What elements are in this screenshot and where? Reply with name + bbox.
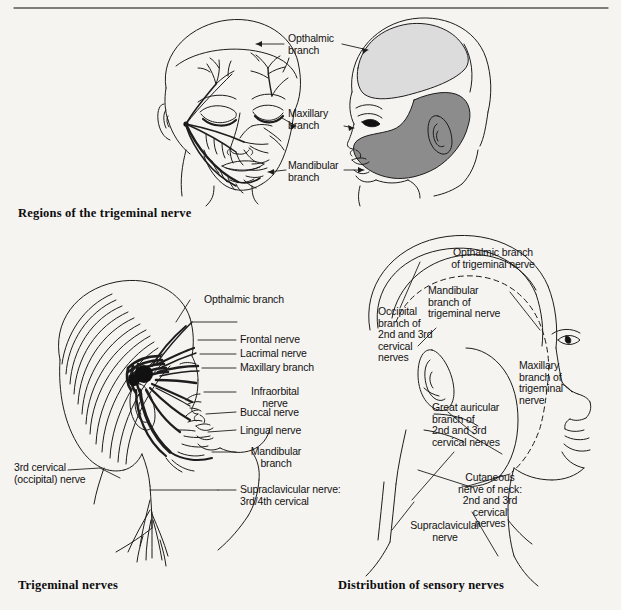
label-opthalmic-branch-top: Opthalmic branch: [288, 33, 334, 56]
textbook-page: Opthalmic branch Maxillary branch Mandib…: [0, 0, 621, 610]
label-lacrimal-nerve: Lacrimal nerve: [240, 348, 307, 360]
label-lingual-nerve: Lingual nerve: [240, 425, 301, 437]
label-third-cervical-nerve: 3rd cervical (occipital) nerve: [14, 462, 86, 485]
label-maxillary-branch-top: Maxillary branch: [288, 108, 328, 131]
label-mandibular-branch-top: Mandibular branch: [288, 160, 338, 183]
label-supraclavicular-nerve: Supraclavicular nerve: 3rd/4th cervical: [240, 484, 341, 507]
label-opthalmic-branch-trigeminal: Opthalmic branch of trigeminal nerve: [418, 247, 568, 270]
label-mandibular-branch: Mandibular branch: [240, 446, 312, 469]
figure2-head: [58, 280, 270, 566]
label-supraclavicular-nerve: Supraclavicular nerve: [398, 520, 492, 543]
figure1-profile-shaded: [347, 18, 490, 206]
label-frontal-nerve: Frontal nerve: [240, 334, 300, 346]
label-opthalmic-branch: Opthalmic branch: [204, 294, 284, 306]
label-buccal-nerve: Buccal nerve: [240, 407, 299, 419]
label-occipital-branch-cervical: Occipital branch of 2nd and 3rd cervical…: [378, 306, 432, 364]
caption-regions-trigeminal: Regions of the trigeminal nerve: [18, 206, 192, 221]
label-maxillary-branch-trigeminal: Maxillary branch of trigeminal nerve: [519, 360, 563, 406]
label-great-auricular-branch: Great auricular branch of 2nd and 3rd ce…: [432, 402, 500, 448]
caption-distribution-sensory: Distribution of sensory nerves: [338, 578, 504, 593]
figure2-leaders: [68, 300, 237, 490]
caption-trigeminal-nerves: Trigeminal nerves: [18, 578, 118, 593]
figure1-face-front: [158, 19, 301, 206]
label-mandibular-branch-trigeminal: Mandibular branch of trigeminal nerve: [428, 285, 500, 320]
label-maxillary-branch: Maxillary branch: [240, 362, 314, 374]
